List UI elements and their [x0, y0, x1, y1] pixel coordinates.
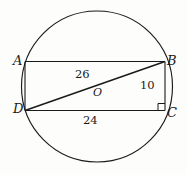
- vertex-label-a: A: [13, 54, 22, 67]
- center-label-o: O: [93, 87, 102, 98]
- measure-label-side-dc: 24: [83, 115, 98, 127]
- vertex-label-c: C: [167, 106, 177, 119]
- geometry-figure: A B C D O 26 10 24: [0, 0, 187, 175]
- vertex-label-d: D: [13, 102, 23, 115]
- measure-label-diagonal: 26: [75, 69, 90, 81]
- vertex-label-b: B: [167, 54, 177, 67]
- measure-label-side-bc: 10: [140, 80, 155, 92]
- right-angle-marker-icon: [158, 104, 165, 111]
